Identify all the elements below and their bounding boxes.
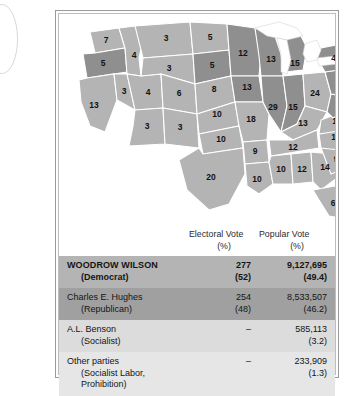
electoral-vote-cell: –: [189, 320, 259, 352]
electoral-map: .w { fill:#b4b4b4; stroke:#ffffff; strok…: [59, 14, 335, 219]
label-AZ: 3: [145, 121, 150, 131]
electoral-vote-cell: –: [189, 352, 259, 396]
label-WY: 3: [167, 63, 172, 73]
popular-vote-value: 585,113: [259, 324, 327, 336]
label-NC: 12: [331, 132, 335, 142]
candidate-name: Charles E. Hughes: [67, 292, 189, 304]
candidate-party: (Republican): [67, 304, 189, 316]
candidate-cell: A.L. Benson (Socialist): [59, 320, 189, 352]
popular-vote-pct: (46.2): [259, 304, 327, 316]
candidate-cell: WOODROW WILSON (Democrat): [59, 256, 189, 288]
label-CO: 6: [177, 88, 182, 98]
label-UT: 4: [146, 87, 151, 97]
label-AR: 9: [253, 146, 258, 156]
label-VA: 12: [332, 116, 335, 126]
label-TN: 12: [288, 142, 298, 152]
table-row: WOODROW WILSON (Democrat) 277 (52) 9,127…: [59, 256, 335, 288]
popular-vote-cell: 8,533,507 (46.2): [259, 288, 335, 320]
results-table: Electoral Vote (%) Popular Vote (%) WOOD…: [59, 219, 335, 396]
label-KY: 13: [298, 118, 308, 128]
popular-vote-pct: (3.2): [259, 336, 327, 348]
candidate-party: (Socialist): [67, 336, 189, 348]
candidate-name: A.L. Benson: [67, 324, 189, 336]
electoral-vote-value: –: [189, 356, 251, 368]
candidate-cell: Charles E. Hughes (Republican): [59, 288, 189, 320]
electoral-vote-pct: (48): [189, 304, 251, 316]
candidate-party: (Socialist Labor, Prohibition): [67, 368, 189, 391]
popular-vote-value: 233,909: [259, 356, 327, 368]
label-IL: 29: [268, 102, 278, 112]
label-MN: 12: [238, 48, 248, 58]
label-ND: 5: [208, 32, 213, 42]
label-NM: 3: [178, 122, 183, 132]
label-MO: 18: [246, 114, 256, 124]
electoral-vote-value: 277: [189, 260, 251, 272]
header-electoral-vote-label: Electoral Vote: [189, 229, 243, 239]
candidate-name: WOODROW WILSON: [67, 260, 189, 272]
header-popular-vote-sub: (%): [259, 241, 335, 251]
label-WA: 7: [104, 35, 109, 45]
label-AL: 12: [297, 164, 307, 174]
label-NV: 3: [122, 86, 127, 96]
scan-artifact-arc: [0, 4, 18, 74]
table-header-row: Electoral Vote (%) Popular Vote (%): [59, 219, 335, 256]
table-row: A.L. Benson (Socialist) – 585,113 (3.2): [59, 320, 335, 352]
label-NY: 45: [331, 53, 335, 63]
electoral-vote-cell: 254 (48): [189, 288, 259, 320]
popular-vote-cell: 9,127,695 (49.4): [259, 256, 335, 288]
label-IA: 13: [242, 82, 252, 92]
popular-vote-value: 8,533,507: [259, 292, 327, 304]
electoral-vote-pct: (52): [189, 272, 251, 284]
popular-vote-cell: 585,113 (3.2): [259, 320, 335, 352]
popular-vote-pct: (1.3): [259, 368, 327, 380]
header-popular-vote: Popular Vote (%): [259, 219, 335, 256]
electoral-vote-cell: 277 (52): [189, 256, 259, 288]
label-OR: 5: [101, 58, 106, 68]
header-electoral-vote-sub: (%): [189, 241, 259, 251]
candidate-party: (Democrat): [67, 272, 189, 284]
label-ID: 4: [132, 50, 137, 60]
results-table-wrapper: Electoral Vote (%) Popular Vote (%) WOOD…: [59, 219, 335, 374]
label-LA: 10: [252, 174, 262, 184]
popular-vote-pct: (49.4): [259, 272, 327, 284]
label-GA: 14: [320, 162, 330, 172]
election-figure: .w { fill:#b4b4b4; stroke:#ffffff; strok…: [0, 0, 351, 396]
header-electoral-vote: Electoral Vote (%): [189, 219, 259, 256]
label-MS: 10: [276, 164, 286, 174]
popular-vote-value: 9,127,695: [259, 260, 327, 272]
label-OH: 24: [310, 88, 320, 98]
label-CA: 13: [89, 100, 99, 110]
label-FL: 6: [331, 198, 335, 208]
table-row: Charles E. Hughes (Republican) 254 (48) …: [59, 288, 335, 320]
label-MI: 15: [290, 58, 300, 68]
label-OK: 10: [216, 134, 226, 144]
header-popular-vote-label: Popular Vote: [259, 229, 309, 239]
label-SC: 9: [334, 154, 335, 164]
popular-vote-cell: 233,909 (1.3): [259, 352, 335, 396]
label-WI: 13: [266, 54, 276, 64]
label-SD: 5: [210, 60, 215, 70]
label-MT: 3: [164, 33, 169, 43]
candidate-name: Other parties: [67, 356, 189, 368]
header-candidate: [59, 219, 189, 256]
label-KS: 10: [212, 109, 222, 119]
candidate-cell: Other parties (Socialist Labor, Prohibit…: [59, 352, 189, 396]
table-row: Other parties (Socialist Labor, Prohibit…: [59, 352, 335, 396]
label-TX: 20: [206, 172, 216, 182]
electoral-vote-value: –: [189, 324, 251, 336]
electoral-vote-value: 254: [189, 292, 251, 304]
label-NE: 8: [212, 84, 217, 94]
label-IN: 15: [288, 102, 298, 112]
